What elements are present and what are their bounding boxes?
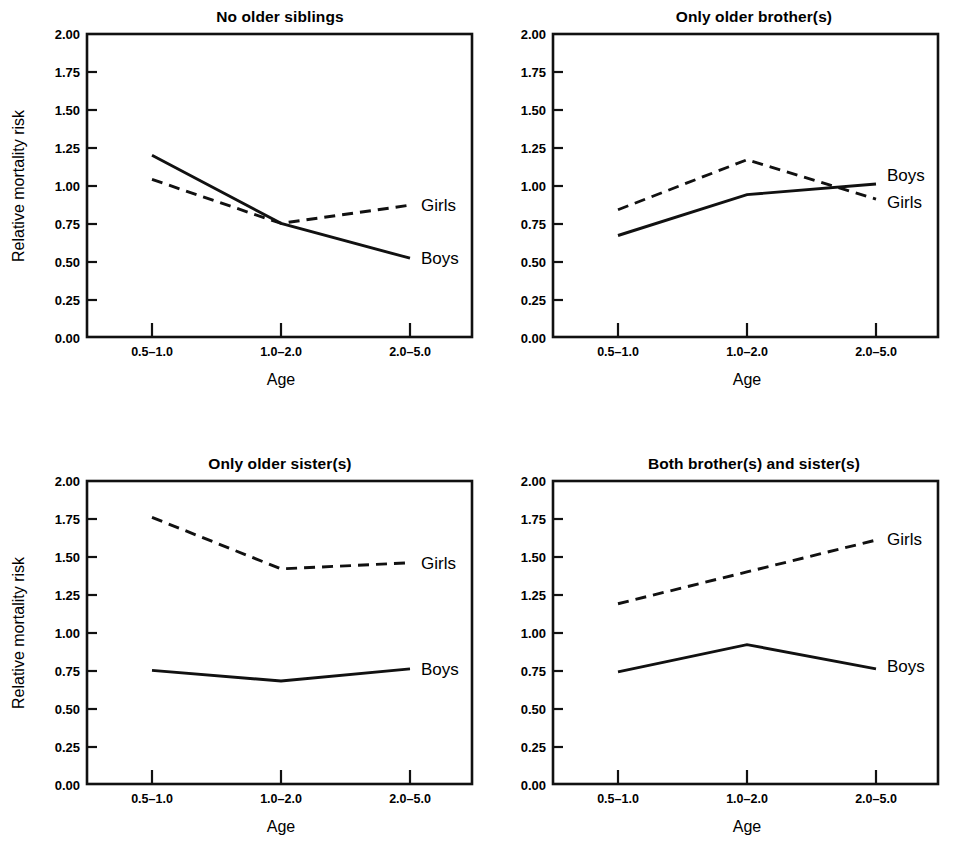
x-tick-label: 2.0–5.0 bbox=[389, 792, 431, 806]
series-line-girls bbox=[618, 540, 876, 604]
x-tick-label: 0.5–1.0 bbox=[597, 792, 639, 806]
y-tick-label: 1.25 bbox=[55, 588, 80, 603]
y-tick-label: 0.25 bbox=[55, 293, 80, 308]
x-axis-ticks bbox=[618, 323, 876, 337]
panel-svg: Both brother(s) and sister(s) 2.00 1.75 … bbox=[479, 440, 958, 857]
y-tick-label: 0.25 bbox=[521, 740, 546, 755]
panel-title: Only older sister(s) bbox=[208, 455, 351, 472]
y-tick-label: 1.50 bbox=[521, 103, 546, 118]
y-tick-label: 1.25 bbox=[55, 141, 80, 156]
series-label-boys: Boys bbox=[887, 657, 925, 676]
y-tick-label: 0.00 bbox=[55, 778, 80, 793]
x-tick-label: 2.0–5.0 bbox=[389, 345, 431, 359]
series-line-boys bbox=[152, 155, 410, 258]
y-tick-label: 0.00 bbox=[55, 331, 80, 346]
y-tick-label: 0.25 bbox=[55, 740, 80, 755]
panel-only-older-brothers: Only older brother(s) 2.00 1.75 1.50 1.2… bbox=[479, 0, 958, 428]
x-axis-ticks bbox=[152, 770, 410, 784]
y-tick-label: 1.50 bbox=[55, 550, 80, 565]
panel-svg: Only older sister(s) Relative mortality … bbox=[0, 440, 479, 857]
x-axis-title: Age bbox=[733, 371, 762, 388]
x-axis-ticks bbox=[152, 323, 410, 337]
panel-title: Both brother(s) and sister(s) bbox=[648, 455, 860, 472]
series-label-boys: Boys bbox=[887, 166, 925, 185]
series-line-boys bbox=[618, 184, 876, 236]
y-tick-label: 2.00 bbox=[55, 27, 80, 42]
plot-frame bbox=[87, 34, 472, 337]
x-tick-label: 0.5–1.0 bbox=[131, 345, 173, 359]
x-tick-label: 1.0–2.0 bbox=[260, 345, 302, 359]
series-label-girls: Girls bbox=[421, 196, 456, 215]
y-tick-label: 2.00 bbox=[521, 27, 546, 42]
x-tick-labels: 0.5–1.0 1.0–2.0 2.0–5.0 bbox=[597, 792, 897, 806]
panel-no-older-siblings: No older siblings Relative mortality ris… bbox=[0, 0, 479, 428]
figure-multi-panel-line-charts: No older siblings Relative mortality ris… bbox=[0, 0, 958, 857]
y-tick-label: 1.75 bbox=[521, 512, 546, 527]
panel-only-older-sisters: Only older sister(s) Relative mortality … bbox=[0, 440, 479, 857]
y-tick-label: 0.25 bbox=[521, 293, 546, 308]
series-label-girls: Girls bbox=[421, 554, 456, 573]
y-tick-label: 2.00 bbox=[55, 474, 80, 489]
x-tick-labels: 0.5–1.0 1.0–2.0 2.0–5.0 bbox=[131, 345, 431, 359]
x-tick-label: 1.0–2.0 bbox=[260, 792, 302, 806]
y-tick-label: 1.25 bbox=[521, 588, 546, 603]
plot-frame bbox=[87, 481, 472, 784]
plot-frame bbox=[553, 34, 938, 337]
y-tick-label: 0.75 bbox=[521, 664, 546, 679]
y-tick-label: 2.00 bbox=[521, 474, 546, 489]
series-line-girls bbox=[618, 160, 876, 210]
x-axis-title: Age bbox=[267, 818, 296, 835]
panel-title: No older siblings bbox=[216, 8, 343, 25]
x-tick-labels: 0.5–1.0 1.0–2.0 2.0–5.0 bbox=[597, 345, 897, 359]
panel-title: Only older brother(s) bbox=[676, 8, 832, 25]
x-tick-label: 1.0–2.0 bbox=[726, 792, 768, 806]
y-tick-label: 1.50 bbox=[521, 550, 546, 565]
y-tick-label: 1.75 bbox=[521, 65, 546, 80]
y-tick-label: 1.75 bbox=[55, 512, 80, 527]
y-tick-label: 1.00 bbox=[521, 179, 546, 194]
series-line-girls bbox=[152, 179, 410, 223]
y-tick-label: 1.00 bbox=[55, 626, 80, 641]
series-label-girls: Girls bbox=[887, 193, 922, 212]
y-tick-label: 0.50 bbox=[521, 702, 546, 717]
series-label-girls: Girls bbox=[887, 530, 922, 549]
series-line-boys bbox=[618, 645, 876, 672]
y-tick-label: 0.00 bbox=[521, 331, 546, 346]
y-tick-labels: 2.00 1.75 1.50 1.25 1.00 0.75 0.50 0.25 … bbox=[55, 27, 80, 346]
panel-svg: Only older brother(s) 2.00 1.75 1.50 1.2… bbox=[479, 0, 958, 428]
x-tick-label: 0.5–1.0 bbox=[131, 792, 173, 806]
y-axis-title: Relative mortality risk bbox=[10, 109, 27, 262]
series-label-boys: Boys bbox=[421, 660, 459, 679]
plot-frame bbox=[553, 481, 938, 784]
y-tick-labels: 2.00 1.75 1.50 1.25 1.00 0.75 0.50 0.25 … bbox=[521, 27, 546, 346]
series-label-boys: Boys bbox=[421, 249, 459, 268]
y-tick-label: 0.75 bbox=[55, 664, 80, 679]
y-tick-label: 0.75 bbox=[521, 217, 546, 232]
x-axis-title: Age bbox=[267, 371, 296, 388]
y-tick-label: 1.75 bbox=[55, 65, 80, 80]
x-tick-label: 2.0–5.0 bbox=[855, 345, 897, 359]
y-tick-label: 1.50 bbox=[55, 103, 80, 118]
y-axis-title: Relative mortality risk bbox=[10, 556, 27, 709]
y-axis-ticks bbox=[87, 519, 97, 747]
y-tick-label: 1.25 bbox=[521, 141, 546, 156]
y-tick-label: 1.00 bbox=[55, 179, 80, 194]
y-tick-label: 0.75 bbox=[55, 217, 80, 232]
y-axis-ticks bbox=[87, 72, 97, 300]
x-axis-ticks bbox=[618, 770, 876, 784]
x-axis-title: Age bbox=[733, 818, 762, 835]
y-tick-label: 0.00 bbox=[521, 778, 546, 793]
x-tick-labels: 0.5–1.0 1.0–2.0 2.0–5.0 bbox=[131, 792, 431, 806]
x-tick-label: 2.0–5.0 bbox=[855, 792, 897, 806]
x-tick-label: 1.0–2.0 bbox=[726, 345, 768, 359]
y-axis-ticks bbox=[553, 519, 563, 747]
panel-both-brothers-and-sisters: Both brother(s) and sister(s) 2.00 1.75 … bbox=[479, 440, 958, 857]
series-line-girls bbox=[152, 517, 410, 569]
y-axis-ticks bbox=[553, 72, 563, 300]
y-tick-label: 1.00 bbox=[521, 626, 546, 641]
y-tick-labels: 2.00 1.75 1.50 1.25 1.00 0.75 0.50 0.25 … bbox=[521, 474, 546, 793]
panel-svg: No older siblings Relative mortality ris… bbox=[0, 0, 479, 428]
y-tick-labels: 2.00 1.75 1.50 1.25 1.00 0.75 0.50 0.25 … bbox=[55, 474, 80, 793]
series-line-boys bbox=[152, 669, 410, 681]
y-tick-label: 0.50 bbox=[521, 255, 546, 270]
